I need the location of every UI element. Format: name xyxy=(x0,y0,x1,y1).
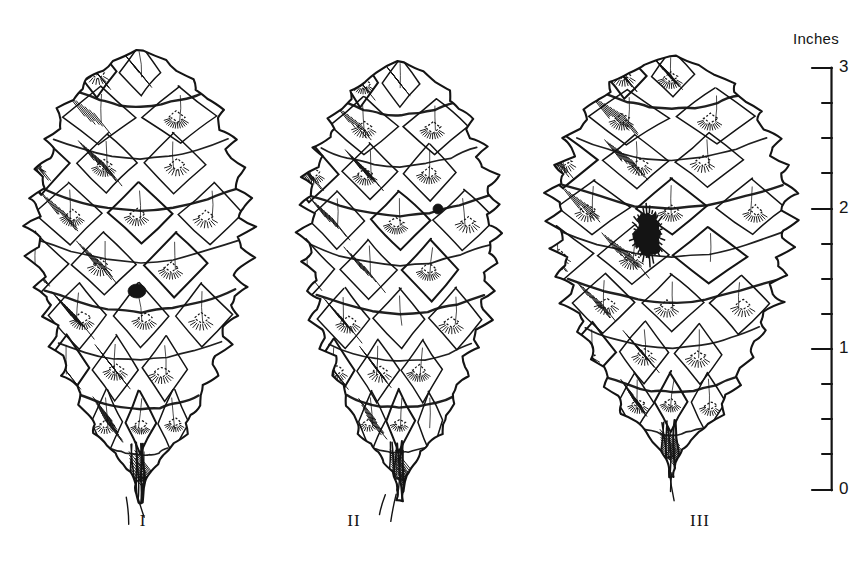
umbo-ray xyxy=(313,178,314,184)
umbo-ray xyxy=(324,372,330,374)
umbo-ray xyxy=(325,373,331,376)
hatch-line xyxy=(284,249,302,272)
specimen-label-i: I xyxy=(113,511,173,531)
umbo-ray xyxy=(556,261,558,267)
umbo-ray xyxy=(561,261,563,267)
umbo-ray xyxy=(176,427,177,432)
cone-outline xyxy=(23,50,256,503)
specimen-label-ii: II xyxy=(324,511,384,531)
umbo-ray xyxy=(23,169,29,172)
scale-tick-label-0: 0 xyxy=(839,479,848,499)
umbo-ray xyxy=(625,80,626,86)
hatch-line xyxy=(286,251,302,271)
hatch-line xyxy=(83,56,98,75)
dark-umbo-spike xyxy=(660,229,663,230)
dark-umbo xyxy=(128,284,146,298)
hatch-line xyxy=(81,54,98,75)
umbo-ray xyxy=(582,361,585,367)
hatch-line xyxy=(346,64,363,85)
dark-umbo xyxy=(433,204,443,214)
specimen-label-iii: III xyxy=(670,511,730,531)
umbo-ray xyxy=(25,170,30,175)
hatch-line xyxy=(531,140,546,158)
hatch-line xyxy=(19,147,40,173)
scale-crease xyxy=(361,63,362,86)
umbo-ray xyxy=(327,374,332,378)
hatch-line xyxy=(289,153,303,170)
umbo-ray xyxy=(641,169,642,175)
specimen-drawing-ii xyxy=(278,57,502,521)
dark-umbo-spike xyxy=(649,206,650,214)
hatch-line xyxy=(535,239,555,264)
scale-tick-label-2: 2 xyxy=(839,198,848,218)
hatch-line xyxy=(534,142,546,157)
scale-bar xyxy=(812,68,832,491)
cone-outline xyxy=(544,56,799,478)
umbo-ray xyxy=(28,171,31,177)
hatch-line xyxy=(292,256,306,273)
umbo-ray xyxy=(129,480,130,482)
umbo-ray xyxy=(138,476,140,477)
hatch-line xyxy=(12,141,31,165)
hatch-line xyxy=(8,242,26,265)
hatch-line xyxy=(531,237,544,253)
specimen-drawing-i xyxy=(3,43,256,524)
hatch-line xyxy=(609,59,620,73)
umbo-ray xyxy=(659,458,661,460)
hatch-line xyxy=(525,233,538,249)
hatch-line xyxy=(537,143,554,164)
hatch-line xyxy=(286,150,299,166)
figure-plate: I II III Inches 3 2 1 0 xyxy=(0,0,867,562)
umbo-ray xyxy=(546,257,552,259)
umbo-ray xyxy=(391,477,392,479)
dark-umbo-spike xyxy=(649,255,650,268)
umbo-ray xyxy=(552,260,555,266)
umbo-ray xyxy=(177,122,178,128)
hatch-line xyxy=(79,51,93,68)
scale-bar-caption: Inches xyxy=(793,30,839,47)
scale-tick-label-3: 3 xyxy=(839,57,848,77)
umbo-ray xyxy=(590,361,592,367)
umbo-ray xyxy=(31,171,33,177)
hatch-line xyxy=(538,242,552,259)
umbo-ray xyxy=(388,476,390,477)
stray-stroke xyxy=(391,494,396,521)
umbo-ray xyxy=(578,360,583,364)
hatch-line xyxy=(281,246,296,265)
hatch-line xyxy=(25,153,37,169)
umbo-ray xyxy=(398,478,400,479)
umbo-ray xyxy=(576,359,582,362)
scale-crease xyxy=(333,347,334,376)
cone-illustration-canvas xyxy=(0,0,867,562)
umbo-ray xyxy=(132,480,133,482)
scale-tick-label-1: 1 xyxy=(839,338,848,358)
umbo-ray xyxy=(146,324,147,330)
umbo-ray xyxy=(388,476,390,477)
hatch-line xyxy=(22,150,38,170)
dark-umbo-spike xyxy=(641,213,642,216)
hatch-line xyxy=(610,61,624,78)
umbo-ray xyxy=(575,358,582,360)
umbo-ray xyxy=(127,479,129,480)
umbo-ray xyxy=(661,458,662,460)
umbo-ray xyxy=(352,85,358,87)
hatch-line xyxy=(15,144,27,159)
umbo-ray xyxy=(367,427,368,432)
umbo-ray xyxy=(389,476,391,478)
umbo-ray xyxy=(420,376,421,382)
umbo-ray xyxy=(584,361,586,367)
dark-umbo-spike xyxy=(654,252,655,255)
umbo-ray xyxy=(128,480,130,482)
dark-umbo-spike xyxy=(634,229,636,230)
umbo-ray xyxy=(130,480,131,482)
umbo-ray xyxy=(658,457,660,458)
umbo-ray xyxy=(663,458,664,460)
umbo-ray xyxy=(670,457,671,459)
hatch-line xyxy=(528,235,542,252)
hatch-line xyxy=(539,145,558,168)
umbo-ray xyxy=(658,457,660,458)
hatch-line xyxy=(6,240,24,263)
umbo-ray xyxy=(127,479,129,480)
umbo-ray xyxy=(664,456,666,457)
specimen-drawing-iii xyxy=(523,50,799,501)
